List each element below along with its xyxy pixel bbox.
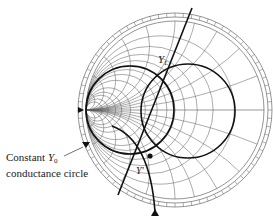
susceptance-arcs (0, 0, 273, 221)
load-admittance-label: YL (158, 53, 168, 69)
callout-text-line2: conductance circle (6, 167, 88, 179)
smith-chart (0, 0, 273, 221)
point-y-prime (147, 153, 152, 158)
y-subscript: 0 (54, 157, 58, 165)
center-marker (78, 107, 84, 113)
yl-subscript: L (164, 59, 168, 67)
callout-constant-y0-conductance-circle: Constant Y0 conductance circle (6, 151, 88, 179)
constant-conductance-circle-right (141, 64, 235, 158)
bottom-triangle-marker (151, 209, 159, 216)
callout-text: Constant (6, 151, 48, 163)
y-prime-label: Y' (136, 165, 144, 177)
